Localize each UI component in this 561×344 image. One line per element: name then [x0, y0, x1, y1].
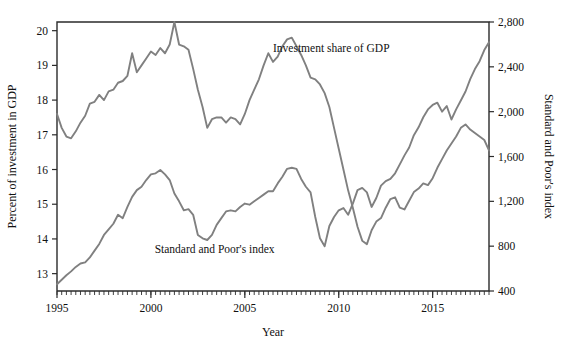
series-line-investment-share-of-gdp: [57, 22, 489, 244]
x-tick-label: 2005: [233, 302, 256, 314]
y-axis-right-ticks: [489, 22, 494, 291]
y-left-tick-label: 19: [37, 59, 49, 71]
y-left-tick-label: 16: [37, 164, 49, 176]
x-axis-tick-labels: 19952000200520102015: [46, 302, 445, 314]
x-axis-title: Year: [262, 325, 284, 339]
y-axis-right-tick-labels: 4008001,2001,6002,0002,4002,800: [498, 16, 524, 297]
x-tick-label: 2000: [139, 302, 162, 314]
y-left-tick-label: 18: [37, 94, 49, 106]
y-right-tick-label: 2,400: [498, 61, 524, 74]
y-right-tick-label: 1,200: [498, 195, 524, 208]
x-tick-label: 2015: [421, 302, 444, 314]
y-right-tick-label: 2,800: [498, 16, 524, 29]
y-left-tick-label: 20: [37, 25, 49, 37]
series-annotation-1: Investment share of GDP: [273, 42, 390, 54]
series-annotations: Investment share of GDPStandard and Poor…: [155, 42, 390, 255]
chart-svg: 19952000200520102015 1314151617181920 40…: [0, 0, 561, 344]
y-axis-left-ticks: [52, 31, 57, 274]
y-left-tick-label: 14: [37, 233, 49, 245]
y-right-tick-label: 1,600: [498, 151, 524, 164]
y-axis-right-title: Standard and Poor's index: [542, 94, 556, 219]
chart-figure: 19952000200520102015 1314151617181920 40…: [0, 0, 561, 344]
y-left-tick-label: 13: [37, 268, 49, 280]
y-right-tick-label: 800: [498, 240, 516, 252]
y-right-tick-label: 2,000: [498, 106, 524, 119]
y-left-tick-label: 17: [37, 129, 49, 141]
y-axis-left-title: Percent of investment in GDP: [5, 84, 19, 228]
y-right-tick-label: 400: [498, 285, 516, 297]
y-axis-left-tick-labels: 1314151617181920: [37, 25, 49, 280]
x-tick-label: 2010: [327, 302, 350, 314]
series-annotation-2: Standard and Poor's index: [155, 243, 275, 255]
x-tick-label: 1995: [46, 302, 69, 314]
y-left-tick-label: 15: [37, 198, 49, 210]
